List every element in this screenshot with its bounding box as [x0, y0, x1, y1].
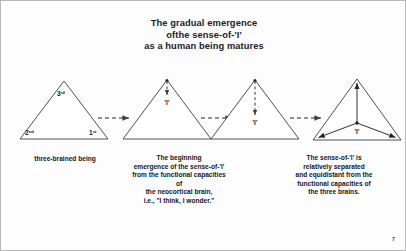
caption-3-line-4: functional capacities of [267, 180, 401, 189]
stage-4-i-label: 'I' [355, 128, 360, 135]
diagram-figure: 3rd 2nd 1st 'I' 'I' 'I' [1, 1, 406, 251]
stage-2-triangle [123, 79, 211, 139]
caption-2-line-6: i.e., "I think, I wonder." [97, 197, 261, 206]
slide-canvas: The gradual emergence ofthe sense-of-'I'… [0, 0, 406, 251]
caption-3-line-3: and equidistant from the [267, 171, 401, 180]
caption-2-line-3: from the functional capacities [97, 171, 261, 180]
page-number: 7 [392, 236, 395, 242]
caption-2-line-5: the neocortical brain, [97, 188, 261, 197]
stage-3-triangle [211, 79, 299, 139]
caption-3-line-2: relatively separated [267, 163, 401, 172]
stage-3-i-label: 'I' [253, 119, 258, 126]
caption-2-line-1: The beginning [97, 154, 261, 163]
caption-stage-2: The beginning emergence of the sense-of-… [97, 154, 261, 206]
caption-2-line-2: emergence of the sense-of-'I' [97, 163, 261, 172]
caption-stage-4: The sense-of-'I' is relatively separated… [267, 154, 401, 197]
caption-2-line-4: of [97, 180, 261, 189]
caption-3-line-5: the three brains. [267, 188, 401, 197]
stage-2-i-label: 'I' [165, 99, 170, 106]
caption-3-line-1: The sense-of-'I' is [267, 154, 401, 163]
